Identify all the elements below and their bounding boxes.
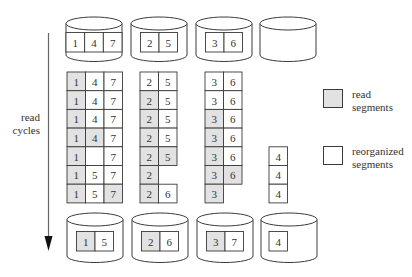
disk-2-reorganized: 26 [132,213,188,263]
reorganized-segment-swatch [324,147,343,165]
read-segment-swatch [324,90,343,108]
disk-top [260,17,316,30]
cycle-1-segment: 2 [140,72,159,91]
read-cycle-grid: 1471471471471715715725252525252263636363… [67,72,288,203]
disk-4-initial [260,17,316,62]
cycle-6-segment: 7 [104,166,123,185]
segment-number: 5 [102,236,108,248]
segment-7: 7 [103,33,122,53]
legend-reorganized-line-2: segments [352,158,393,170]
reorganized-disks: 1526374 [67,213,317,263]
cycle-2-segment: 2 [140,91,159,110]
segment-number: 4 [276,188,282,200]
segment-number: 5 [165,113,171,125]
segment-number: 1 [74,151,80,163]
segment-number: 4 [92,132,98,144]
segment-number: 3 [212,188,218,200]
segment-number: 6 [165,188,171,200]
legend-item-reorganized: reorganized segments [324,145,405,170]
segment-number: 7 [111,95,117,107]
disk-4-reorganized: 4 [261,213,317,263]
disk-top [196,17,252,30]
cycle-6-segment: 1 [67,166,86,185]
cycle-7-segment: 4 [269,184,288,203]
segment-7: 7 [225,232,244,252]
segment-number: 1 [74,95,80,107]
segment-number: 4 [276,151,282,163]
segment-number: 7 [111,113,117,125]
cycle-4-segment: 5 [159,128,178,147]
cycle-4-segment: 3 [205,128,224,147]
cycle-7-segment: 5 [86,184,105,203]
segment-number: 3 [212,151,218,163]
segment-6: 6 [160,232,179,252]
cycle-6-segment: 4 [269,166,288,185]
disk-1-reorganized: 15 [67,213,123,263]
segment-number: 6 [230,113,236,125]
segment-number: 5 [92,188,98,200]
segment-number: 7 [111,132,117,144]
segment-number: 2 [147,151,153,163]
cycle-2-segment: 6 [224,91,243,110]
segment-number: 3 [212,132,218,144]
cycle-4-segment: 1 [67,128,86,147]
segment-number: 3 [212,113,218,125]
segment-number: 6 [167,236,173,248]
cycle-7-segment: 2 [140,184,159,203]
cycle-5-segment: 1 [67,147,86,166]
legend: read segments reorganized segments [324,88,405,170]
segment-number: 3 [213,236,219,248]
segment-number: 5 [165,95,171,107]
segment-5: 5 [95,232,114,252]
segment-number: 2 [147,169,153,181]
segment-number: 7 [111,76,117,88]
cycle-2-segment: 1 [67,91,86,110]
disk-top [131,17,187,30]
disk-top [132,213,188,226]
initial-disks: 1472536 [66,17,316,62]
cycle-7-segment: 1 [67,184,86,203]
segment-number: 2 [148,236,154,248]
disk-3-cycles: 3636363636363 [205,72,242,203]
segment-number: 5 [165,151,171,163]
cycle-6-segment: 3 [205,166,224,185]
disk-top [197,213,253,226]
segment-number: 2 [147,37,153,49]
cycle-5-segment: 3 [205,147,224,166]
segment-number: 4 [276,236,282,248]
disk-3-initial: 36 [196,17,252,61]
segment-1: 1 [77,232,96,252]
segment-number: 5 [92,169,98,181]
segment-number: 6 [230,151,236,163]
cycle-2-segment: 4 [86,91,105,110]
cycle-5-segment: 5 [159,147,178,166]
striping-reorganization-diagram: read cycles 1472536 14714714714717157157… [0,0,412,277]
segment-number: 2 [147,188,153,200]
disk-2-cycles: 2525252525226 [140,72,177,203]
cycle-2-segment: 3 [205,91,224,110]
cycle-5-segment [86,147,105,166]
segment-number: 3 [212,76,218,88]
segment-number: 7 [232,236,238,248]
cycle-3-segment: 7 [104,109,123,128]
cycle-6-segment: 2 [140,166,159,185]
segment-number: 1 [73,37,79,49]
segment-1: 1 [66,33,85,53]
segment-number: 2 [147,113,153,125]
cycle-7-segment: 7 [104,184,123,203]
segment-number: 7 [111,169,117,181]
segment-number: 1 [74,169,80,181]
read-cycles-axis: read cycles [13,33,53,251]
segment-box [86,147,105,166]
down-arrow-icon [45,236,53,251]
segment-number: 6 [230,76,236,88]
legend-read-line-1: read [352,88,371,100]
cycle-4-segment: 7 [104,128,123,147]
cycle-1-segment: 6 [224,72,243,91]
cycle-5-segment: 6 [224,147,243,166]
segment-5: 5 [159,33,178,53]
cycle-5-segment: 2 [140,147,159,166]
disk-top [67,213,123,226]
disk-1-initial: 147 [66,17,122,62]
axis-label-line-1: read [21,111,40,123]
